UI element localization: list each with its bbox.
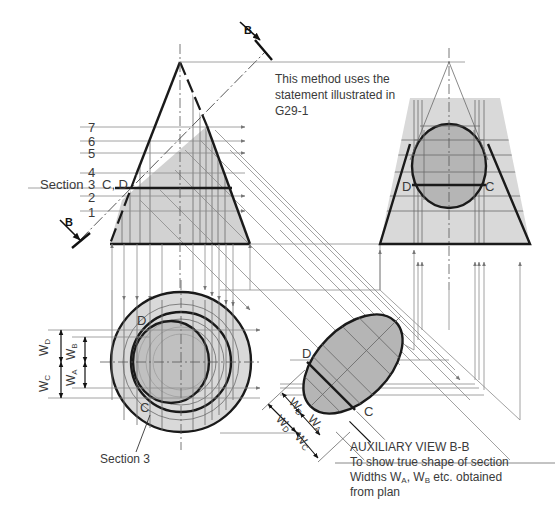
section-level-7: 7 bbox=[88, 120, 95, 135]
aux-view-note-line3: from plan bbox=[350, 485, 400, 500]
end-view-point-c: C bbox=[485, 179, 494, 194]
aux-point-d: D bbox=[302, 346, 311, 361]
plan-view bbox=[48, 280, 300, 452]
section-level-5: 5 bbox=[88, 146, 95, 161]
section-level-1: 1 bbox=[88, 205, 95, 220]
section-label: Section bbox=[40, 177, 83, 192]
section-3-leader-label: Section 3 bbox=[100, 452, 150, 467]
technical-drawing: This method uses the statement illustrat… bbox=[0, 0, 558, 528]
plan-point-d: D bbox=[137, 313, 146, 328]
aux-point-c: C bbox=[364, 404, 373, 419]
method-note-line3: G29-1 bbox=[275, 104, 308, 119]
section-level-2: 2 bbox=[88, 190, 95, 205]
plan-width-wa: WA bbox=[64, 369, 82, 386]
plan-width-wc: WC bbox=[37, 375, 55, 392]
method-note-line2: statement illustrated in bbox=[275, 88, 395, 103]
end-view-point-d: D bbox=[402, 179, 411, 194]
plan-point-c: C bbox=[140, 400, 149, 415]
cutting-plane-label-top: B bbox=[244, 23, 252, 38]
aux-view-title: AUXILIARY VIEW B-B bbox=[350, 440, 470, 455]
plan-width-wd: WD bbox=[37, 339, 55, 356]
projector-lines bbox=[112, 244, 380, 306]
section-points-cd: C, D bbox=[102, 177, 128, 192]
aux-view-note-line1: To show true shape of section bbox=[350, 455, 509, 470]
method-note-line1: This method uses the bbox=[275, 72, 390, 87]
cutting-plane-label-bottom: B bbox=[65, 215, 73, 230]
plan-width-wb: WB bbox=[64, 343, 82, 360]
